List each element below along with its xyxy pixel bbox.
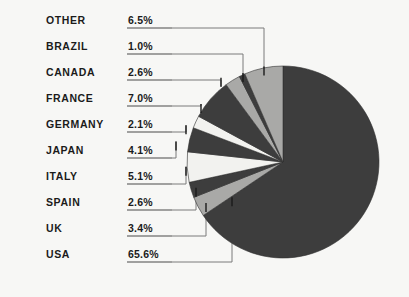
value-label-other: 6.5% [128, 14, 153, 26]
value-label-usa: 65.6% [128, 248, 159, 260]
value-label-france: 7.0% [128, 92, 153, 104]
category-label-other: OTHER [46, 14, 86, 26]
value-label-germany: 2.1% [128, 118, 153, 130]
value-label-canada: 2.6% [128, 66, 153, 78]
category-label-italy: ITALY [46, 170, 78, 182]
value-label-brazil: 1.0% [128, 40, 153, 52]
category-label-france: FRANCE [46, 92, 93, 104]
category-label-spain: SPAIN [46, 196, 80, 208]
category-label-uk: UK [46, 222, 62, 234]
value-label-uk: 3.4% [128, 222, 153, 234]
pie-chart-figure: OTHER6.5%BRAZIL1.0%CANADA2.6%FRANCE7.0%G… [0, 0, 409, 297]
category-label-brazil: BRAZIL [46, 40, 88, 52]
category-label-usa: USA [46, 248, 70, 260]
category-label-germany: GERMANY [46, 118, 104, 130]
value-label-spain: 2.6% [128, 196, 153, 208]
pie-chart-svg: OTHER6.5%BRAZIL1.0%CANADA2.6%FRANCE7.0%G… [0, 0, 409, 297]
pie-slices-group [187, 66, 379, 258]
value-label-italy: 5.1% [128, 170, 153, 182]
value-label-japan: 4.1% [128, 144, 153, 156]
category-label-canada: CANADA [46, 66, 95, 78]
category-label-japan: JAPAN [46, 144, 84, 156]
